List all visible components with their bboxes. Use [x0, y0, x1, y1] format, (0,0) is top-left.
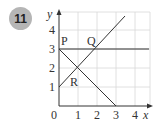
origin-label: 0: [51, 108, 57, 122]
x-tick-2: 2: [94, 108, 100, 122]
grid: [59, 12, 150, 106]
point-r-label: R: [70, 75, 78, 89]
point-p-label: P: [61, 34, 68, 48]
x-tick-4: 4: [132, 108, 138, 122]
x-axis-label: x: [142, 108, 149, 122]
point-q-label: Q: [87, 34, 96, 48]
y-tick-2: 2: [49, 61, 55, 75]
y-axis-label: y: [46, 7, 53, 21]
y-tick-3: 3: [49, 42, 55, 56]
y-tick-4: 4: [49, 23, 55, 37]
x-tick-1: 1: [75, 108, 81, 122]
x-tick-3: 3: [113, 108, 119, 122]
coordinate-diagram: y x 0 1 2 3 4 1 2 3 4 P Q R: [0, 0, 155, 123]
line-y-equals-x-plus-1: [59, 16, 125, 87]
y-tick-1: 1: [49, 80, 55, 94]
plotted-lines: [59, 16, 149, 106]
axes: [59, 12, 150, 106]
